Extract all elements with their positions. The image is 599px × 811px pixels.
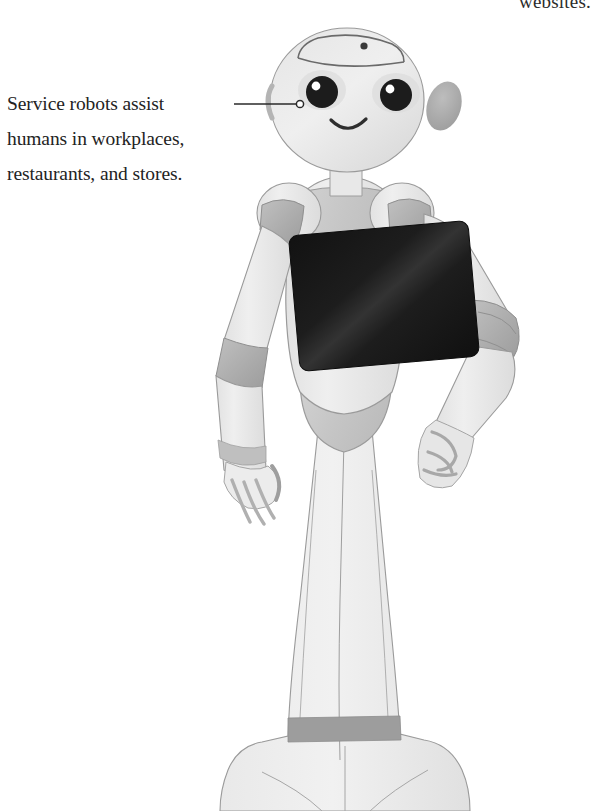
figure-page: websites. (0, 0, 599, 811)
left-eye (306, 76, 338, 108)
forehead-sensor-dot (360, 42, 367, 49)
left-hand (224, 462, 280, 524)
robot-head (268, 28, 467, 172)
caption-line-2: humans in workplaces, (7, 121, 257, 156)
annotation-caption: Service robots assist humans in workplac… (7, 86, 257, 191)
caption-line-1: Service robots assist (7, 86, 257, 121)
ear-patch (421, 77, 467, 134)
base-band (288, 716, 401, 742)
chest-tablet (288, 220, 479, 371)
caption-line-3: restaurants, and stores. (7, 156, 257, 191)
right-eye (380, 79, 412, 111)
